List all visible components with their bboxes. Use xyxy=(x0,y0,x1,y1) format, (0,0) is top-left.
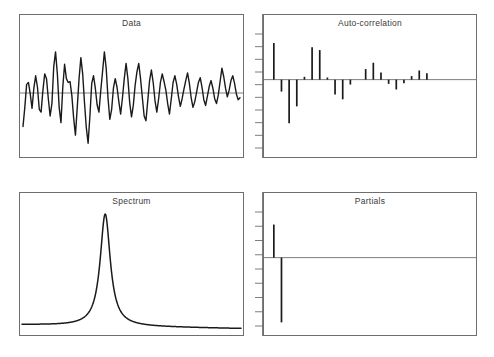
panel-spectrum: Spectrum xyxy=(19,192,244,336)
panel-data: Data xyxy=(19,14,244,158)
figure-canvas: Data Auto-correlation Spectrum Partials xyxy=(0,0,494,357)
partials-stem-plot xyxy=(263,192,477,336)
panel-auto-correlation: Auto-correlation xyxy=(263,14,477,158)
spectrum-curve-plot xyxy=(19,192,244,336)
panel-partials: Partials xyxy=(263,192,477,336)
auto-correlation-stem-plot xyxy=(263,14,477,158)
data-series-plot xyxy=(19,14,244,158)
